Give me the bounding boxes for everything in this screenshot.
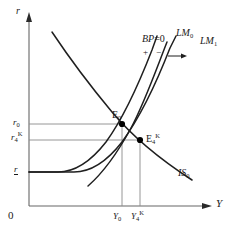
y-axis-arrowhead [26, 12, 32, 22]
y-axis-label: r [16, 6, 20, 16]
y-tick-r-lower-bound: r [14, 165, 18, 175]
lm1-label-base: LM [200, 35, 214, 46]
r4k-sub: 4 [15, 136, 18, 143]
shift-arrow-head [181, 54, 187, 59]
e4k-label-sup: K [155, 132, 160, 139]
r0-sub: 0 [17, 121, 20, 128]
bp-curve-label-eq: =0 [154, 33, 165, 44]
lm1-curve [29, 36, 176, 172]
guide-line-group [29, 124, 140, 206]
x-axis-arrowhead [202, 203, 212, 209]
x-axis-label: Y [216, 198, 222, 209]
y-tick-r4k: r4K [11, 133, 22, 142]
y4k-sub: 4 [136, 215, 139, 222]
lm0-curve [29, 36, 157, 172]
y-tick-r0: r0 [13, 118, 20, 127]
r-lower-base: r [14, 165, 18, 175]
x-tick-y0: Y0 [113, 212, 121, 221]
lm1-label-sub: 1 [214, 40, 217, 47]
e4k-point-label: E4K [146, 134, 160, 144]
y0-sub: 0 [118, 215, 121, 222]
plus-sign-annotation: + [143, 48, 148, 57]
islm-bp-diagram: r Y 0 BP=0 LM0 LM1 IS0 + − E0 E4K r0 r4K… [0, 0, 235, 232]
is0-curve-label: IS0 [178, 168, 190, 178]
shift-arrow-group [168, 54, 187, 59]
bp-curve-label: BP=0 [142, 34, 165, 44]
is0-label-sub: 0 [186, 172, 189, 179]
r4k-sup: K [18, 130, 23, 137]
lm0-label-sub: 0 [190, 32, 193, 39]
e0-label-sub: 0 [118, 114, 121, 121]
lm1-curve-label: LM1 [200, 36, 217, 46]
lm0-curve-label: LM0 [176, 28, 193, 38]
y4k-sup: K [139, 209, 144, 216]
origin-label: 0 [8, 210, 14, 221]
lm0-label-base: LM [176, 27, 190, 38]
x-tick-y4k: Y4K [131, 212, 144, 221]
e4k-label-sub: 4 [152, 138, 155, 145]
equilibrium-point-e4k[interactable] [137, 137, 143, 143]
equilibrium-point-e0[interactable] [119, 121, 125, 127]
minus-sign-annotation: − [156, 48, 161, 57]
bp-curve-label-base: BP [142, 33, 154, 44]
e0-point-label: E0 [112, 110, 121, 120]
